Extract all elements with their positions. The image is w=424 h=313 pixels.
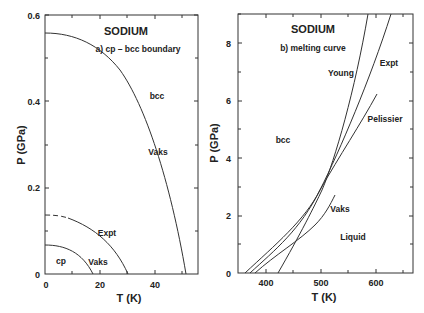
label-liquid: Liquid — [340, 232, 366, 242]
right-panel: 8 6 4 2 0 400 500 600 T (K) P (GPa) SODI… — [208, 14, 413, 303]
left-ytick-0.4: 0.4 — [27, 97, 40, 107]
figure: 0.6 0.4 0.2 0 0 20 40 T (K) P (GPa) SODI… — [0, 0, 424, 313]
right-subtitle: b) melting curve — [280, 43, 346, 53]
label-bcc-right: bcc — [276, 135, 291, 145]
right-ytick-0: 0 — [226, 269, 231, 279]
label-vaks-right: Vaks — [330, 204, 350, 214]
right-xtick-600: 600 — [368, 278, 383, 288]
left-y-axis-label: P (GPa) — [15, 125, 27, 165]
label-bcc-left: bcc — [150, 91, 165, 101]
right-x-axis-label: T (K) — [311, 291, 336, 303]
right-y-axis-label: P (GPa) — [208, 123, 220, 163]
right-xtick-400: 400 — [258, 278, 273, 288]
right-ytick-8: 8 — [226, 39, 231, 49]
left-xtick-40: 40 — [150, 280, 160, 290]
left-xtick-20: 20 — [95, 280, 105, 290]
left-subtitle: a) cp – bcc boundary — [95, 44, 180, 54]
curve-vaks-cp — [45, 245, 93, 274]
left-x-axis-label: T (K) — [116, 292, 141, 304]
right-title: SODIUM — [291, 23, 335, 35]
left-ytick-0.2: 0.2 — [27, 183, 40, 193]
right-ytick-4: 4 — [226, 154, 231, 164]
label-young: Young — [328, 68, 354, 78]
curve-pelissier — [245, 94, 377, 273]
right-ytick-2: 2 — [226, 211, 231, 221]
label-vaks-small: Vaks — [88, 257, 108, 267]
left-panel: 0.6 0.4 0.2 0 0 20 40 T (K) P (GPa) SODI… — [15, 11, 198, 304]
curve-expt-dashed — [45, 215, 68, 218]
left-title: SODIUM — [104, 25, 148, 37]
right-xtick-500: 500 — [313, 278, 328, 288]
label-cp: cp — [56, 256, 66, 266]
left-xtick-0: 0 — [43, 280, 48, 290]
right-ytick-6: 6 — [226, 96, 231, 106]
left-ytick-0: 0 — [35, 270, 40, 280]
curve-vaks-right — [255, 195, 335, 273]
left-ytick-0.6: 0.6 — [27, 11, 40, 21]
label-expt-right: Expt — [380, 58, 399, 68]
label-pelissier: Pelissier — [368, 114, 404, 124]
